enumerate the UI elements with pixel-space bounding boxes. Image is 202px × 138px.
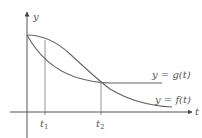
y-axis-label: y — [32, 11, 39, 22]
curve-g-label: y = g(t) — [151, 69, 191, 80]
x-axis-label: t — [195, 106, 200, 117]
t1-label: t1 — [40, 118, 49, 131]
t2-label: t2 — [96, 118, 105, 131]
function-comparison-diagram: y t t1 t2 y = g(t) y = f(t) — [0, 0, 202, 138]
curve-f-label: y = f(t) — [154, 94, 191, 105]
curve-f — [27, 35, 172, 107]
